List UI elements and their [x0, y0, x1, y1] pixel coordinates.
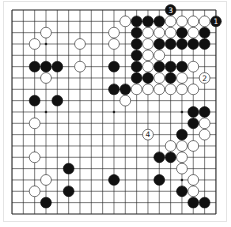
white-stone — [165, 141, 176, 152]
white-stone — [143, 50, 154, 61]
black-stone — [177, 61, 188, 72]
white-stone — [188, 175, 199, 186]
black-stone — [120, 84, 131, 95]
black-stone — [188, 197, 199, 208]
black-stone — [199, 39, 210, 50]
black-stone — [177, 27, 188, 38]
move-number-label: 1 — [214, 17, 219, 26]
star-point — [113, 111, 116, 114]
move-number-label: 4 — [146, 130, 151, 139]
white-stone — [120, 16, 131, 27]
move-number-label: 3 — [168, 6, 173, 15]
white-stone — [29, 118, 40, 129]
black-stone — [52, 61, 63, 72]
white-stone — [109, 27, 120, 38]
white-stone — [188, 16, 199, 27]
white-stone — [177, 84, 188, 95]
white-stone — [131, 84, 142, 95]
black-stone — [52, 95, 63, 106]
white-stone — [75, 39, 86, 50]
white-stone — [177, 141, 188, 152]
black-stone — [177, 39, 188, 50]
black-stone — [143, 73, 154, 84]
black-stone — [188, 118, 199, 129]
black-stone — [143, 16, 154, 27]
black-stone — [154, 39, 165, 50]
black-stone — [165, 73, 176, 84]
white-stone — [188, 84, 199, 95]
black-stone — [131, 39, 142, 50]
white-stone — [143, 61, 154, 72]
white-stone — [143, 27, 154, 38]
black-stone — [199, 27, 210, 38]
black-stone — [165, 61, 176, 72]
white-stone — [165, 84, 176, 95]
black-stone — [165, 39, 176, 50]
black-stone — [177, 186, 188, 197]
black-stone — [63, 163, 74, 174]
black-stone — [63, 186, 74, 197]
black-stone — [199, 197, 210, 208]
star-point — [45, 111, 48, 114]
white-stone — [41, 27, 52, 38]
white-stone — [188, 141, 199, 152]
black-stone — [29, 95, 40, 106]
white-stone — [29, 152, 40, 163]
white-stone — [41, 175, 52, 186]
numbered-move-3: 3 — [165, 5, 176, 16]
black-stone — [109, 84, 120, 95]
white-stone — [199, 118, 210, 129]
white-stone — [29, 39, 40, 50]
black-stone — [131, 16, 142, 27]
black-stone — [109, 61, 120, 72]
numbered-move-1: 1 — [211, 16, 222, 27]
white-stone — [154, 50, 165, 61]
black-stone — [41, 197, 52, 208]
white-stone — [177, 16, 188, 27]
white-stone — [188, 61, 199, 72]
black-stone — [177, 129, 188, 140]
black-stone — [131, 50, 142, 61]
white-stone — [109, 39, 120, 50]
numbered-move-2: 2 — [199, 73, 210, 84]
white-stone — [165, 16, 176, 27]
numbered-move-4: 4 — [143, 129, 154, 140]
black-stone — [154, 61, 165, 72]
white-stone — [154, 27, 165, 38]
move-number-label: 2 — [202, 74, 207, 83]
black-stone — [165, 152, 176, 163]
star-point — [45, 43, 48, 46]
white-stone — [41, 73, 52, 84]
black-stone — [131, 61, 142, 72]
white-stone — [120, 95, 131, 106]
white-stone — [143, 39, 154, 50]
black-stone — [188, 107, 199, 118]
black-stone — [154, 152, 165, 163]
white-stone — [75, 61, 86, 72]
white-stone — [199, 16, 210, 27]
white-stone — [188, 27, 199, 38]
black-stone — [29, 61, 40, 72]
star-point — [181, 179, 184, 182]
white-stone — [165, 27, 176, 38]
white-stone — [177, 152, 188, 163]
white-stone — [177, 73, 188, 84]
white-stone — [188, 186, 199, 197]
white-stone — [177, 163, 188, 174]
star-point — [181, 111, 184, 114]
black-stone — [154, 175, 165, 186]
go-board: 1234 — [0, 0, 231, 227]
black-stone — [131, 73, 142, 84]
white-stone — [143, 84, 154, 95]
black-stone — [154, 16, 165, 27]
white-stone — [154, 84, 165, 95]
white-stone — [199, 129, 210, 140]
black-stone — [188, 39, 199, 50]
white-stone — [29, 186, 40, 197]
black-stone — [131, 27, 142, 38]
black-stone — [41, 61, 52, 72]
white-stone — [154, 73, 165, 84]
black-stone — [199, 107, 210, 118]
black-stone — [109, 175, 120, 186]
